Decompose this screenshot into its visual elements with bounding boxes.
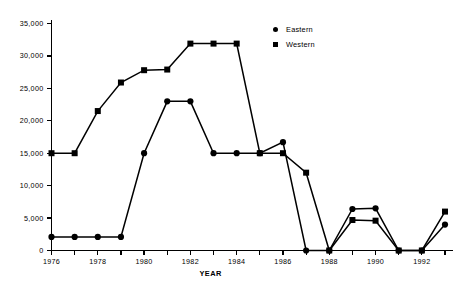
data-point-eastern-1987 (303, 247, 309, 253)
line-chart: 05,00010,00015,00020,00025,00030,00035,0… (0, 0, 458, 286)
data-point-eastern-1977 (72, 234, 78, 240)
legend-item-western: Western (270, 38, 315, 51)
x-tick-label: 1990 (356, 257, 396, 266)
data-point-western-1989 (349, 217, 355, 223)
x-tick-label: 1982 (170, 257, 210, 266)
y-tick-label: 35,000 (0, 19, 44, 28)
x-tick-label: 1992 (402, 257, 442, 266)
chart-plot-area (0, 0, 458, 286)
data-point-western-1982 (187, 41, 193, 47)
data-point-eastern-1980 (141, 150, 147, 156)
series-line-western (52, 44, 446, 251)
data-point-western-1988 (326, 248, 332, 254)
legend-item-eastern: Eastern (270, 23, 315, 36)
y-tick-label: 10,000 (0, 181, 44, 190)
data-point-western-1987 (303, 170, 309, 176)
y-tick-label: 0 (0, 246, 44, 255)
data-point-western-1983 (211, 41, 217, 47)
data-point-eastern-1979 (118, 234, 124, 240)
legend-label: Eastern (286, 25, 313, 34)
data-point-western-1992 (419, 248, 425, 254)
data-point-eastern-1976 (48, 234, 54, 240)
data-point-western-1980 (141, 67, 147, 73)
data-point-western-1979 (118, 80, 124, 86)
data-point-eastern-1978 (95, 234, 101, 240)
x-axis-title: YEAR (200, 269, 222, 278)
data-point-western-1978 (95, 108, 101, 114)
series-lines (52, 44, 446, 251)
data-point-western-1985 (257, 150, 263, 156)
y-tick-label: 30,000 (0, 51, 44, 60)
chart-legend: Eastern Western (270, 23, 315, 53)
x-tick-label: 1988 (309, 257, 349, 266)
x-tick-label: 1986 (263, 257, 303, 266)
axis-lines (47, 20, 454, 251)
circle-marker-icon (270, 27, 281, 32)
data-point-western-1976 (49, 150, 55, 156)
x-tick-label: 1980 (124, 257, 164, 266)
data-point-western-1991 (396, 248, 402, 254)
y-tick-label: 25,000 (0, 84, 44, 93)
square-marker-icon (270, 42, 281, 47)
y-tick-label: 5,000 (0, 214, 44, 223)
data-point-western-1990 (373, 218, 379, 224)
axis-ticks (47, 24, 445, 256)
data-point-western-1986 (280, 150, 286, 156)
y-tick-label: 20,000 (0, 116, 44, 125)
data-point-eastern-1983 (210, 150, 216, 156)
x-tick-label: 1976 (32, 257, 72, 266)
series-markers (48, 41, 448, 254)
data-point-eastern-1989 (349, 206, 355, 212)
data-point-eastern-1993 (442, 221, 448, 227)
data-point-western-1993 (442, 209, 448, 215)
data-point-eastern-1990 (372, 205, 378, 211)
series-line-eastern (52, 101, 446, 250)
data-point-eastern-1986 (280, 139, 286, 145)
data-point-eastern-1982 (187, 98, 193, 104)
legend-label: Western (286, 40, 315, 49)
y-tick-label: 15,000 (0, 149, 44, 158)
data-point-eastern-1981 (164, 98, 170, 104)
x-tick-label: 1978 (78, 257, 118, 266)
x-tick-label: 1984 (217, 257, 257, 266)
data-point-eastern-1984 (234, 150, 240, 156)
data-point-western-1984 (234, 41, 240, 47)
data-point-western-1977 (72, 150, 78, 156)
data-point-western-1981 (164, 67, 170, 73)
